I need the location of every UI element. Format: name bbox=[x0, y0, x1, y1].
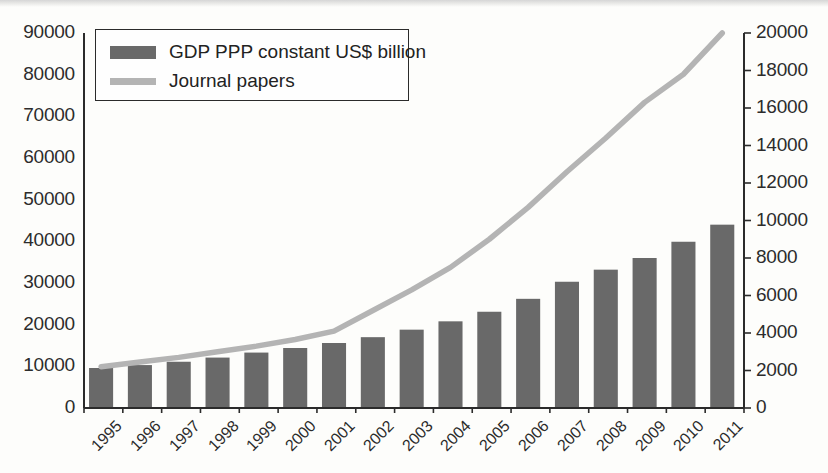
bar-2006 bbox=[516, 299, 540, 408]
right-axis-label-2000: 2000 bbox=[756, 359, 797, 381]
chart-legend: GDP PPP constant US$ billion Journal pap… bbox=[95, 29, 409, 101]
line-swatch-icon bbox=[110, 78, 156, 85]
bar-2005 bbox=[477, 312, 501, 408]
bar-1996 bbox=[128, 365, 152, 408]
bar-2001 bbox=[322, 343, 346, 408]
bar-2002 bbox=[361, 337, 385, 408]
right-axis-label-0: 0 bbox=[756, 396, 766, 418]
bar-1997 bbox=[167, 362, 191, 408]
bar-2008 bbox=[594, 270, 618, 408]
bar-2003 bbox=[400, 330, 424, 408]
bar-swatch-icon bbox=[110, 46, 156, 59]
bar-series-group bbox=[89, 225, 734, 408]
right-axis-label-20000: 20000 bbox=[756, 21, 808, 43]
left-axis-label-90000: 90000 bbox=[23, 21, 75, 43]
legend-item-label: GDP PPP constant US$ billion bbox=[169, 41, 426, 63]
right-axis-label-14000: 14000 bbox=[756, 134, 808, 156]
bar-2010 bbox=[671, 242, 695, 408]
left-axis-label-0: 0 bbox=[65, 396, 75, 418]
right-axis-label-4000: 4000 bbox=[756, 321, 797, 343]
legend-item-gdp: GDP PPP constant US$ billion bbox=[110, 41, 426, 63]
bar-1998 bbox=[206, 358, 230, 408]
bar-2004 bbox=[438, 321, 462, 408]
bar-2011 bbox=[710, 225, 734, 408]
legend-item-label: Journal papers bbox=[169, 70, 295, 92]
right-axis-label-12000: 12000 bbox=[756, 171, 808, 193]
bar-2009 bbox=[633, 258, 657, 408]
left-axis-label-40000: 40000 bbox=[23, 229, 75, 251]
right-axis-label-6000: 6000 bbox=[756, 284, 797, 306]
dual-axis-chart: 0100002000030000400005000060000700008000… bbox=[0, 0, 828, 473]
bar-1999 bbox=[244, 353, 268, 408]
bar-2007 bbox=[555, 282, 579, 408]
left-axis-label-80000: 80000 bbox=[23, 63, 75, 85]
left-axis-label-60000: 60000 bbox=[23, 146, 75, 168]
bar-2000 bbox=[283, 348, 307, 408]
left-axis-label-20000: 20000 bbox=[23, 313, 75, 335]
legend-item-journal-papers: Journal papers bbox=[110, 70, 295, 92]
right-axis-label-18000: 18000 bbox=[756, 59, 808, 81]
right-axis-label-10000: 10000 bbox=[756, 209, 808, 231]
left-axis-label-30000: 30000 bbox=[23, 271, 75, 293]
bar-1995 bbox=[89, 368, 113, 408]
left-axis-label-70000: 70000 bbox=[23, 104, 75, 126]
right-axis-label-8000: 8000 bbox=[756, 246, 797, 268]
right-axis-label-16000: 16000 bbox=[756, 96, 808, 118]
left-axis-label-10000: 10000 bbox=[23, 354, 75, 376]
left-axis-label-50000: 50000 bbox=[23, 188, 75, 210]
